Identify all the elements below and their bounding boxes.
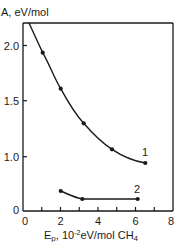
plot-frame bbox=[23, 23, 173, 211]
x-axis-title: Ep, 10-2eV/mol CH4 bbox=[44, 229, 139, 242]
x-tick-label: 8 bbox=[168, 215, 174, 227]
chart: 2.0 1.5 1.0 0 0 2 4 6 8 A, eV/mol Ep, 10… bbox=[0, 0, 177, 242]
x-tick-label: 0 bbox=[22, 215, 28, 227]
series-2-curve bbox=[61, 191, 138, 199]
y-tick-label: 2.0 bbox=[4, 40, 19, 52]
series-1-label: 1 bbox=[142, 146, 148, 158]
series-1-points bbox=[41, 51, 148, 165]
x-tick-label: 2 bbox=[57, 215, 63, 227]
y-tick-label: 1.0 bbox=[4, 151, 19, 163]
y-tick-label: 1.5 bbox=[4, 95, 19, 107]
series-2-label: 2 bbox=[134, 183, 140, 195]
x-tick-label: 6 bbox=[132, 215, 138, 227]
y-tick-label: 0 bbox=[13, 204, 19, 216]
series-1-curve bbox=[29, 23, 145, 163]
y-axis-title: A, eV/mol bbox=[1, 6, 49, 18]
x-tick-label: 4 bbox=[95, 215, 101, 227]
